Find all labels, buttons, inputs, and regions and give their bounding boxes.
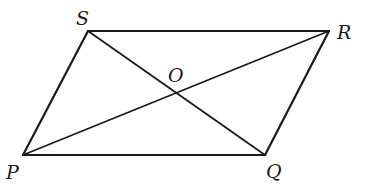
diagonals <box>23 31 329 155</box>
vertex-label-r: R <box>336 21 351 43</box>
vertex-label-s: S <box>76 7 89 29</box>
side-ps <box>23 31 88 155</box>
diagonal-sq <box>88 31 265 155</box>
side-rq <box>265 31 329 155</box>
parallelogram-diagram: S R Q P O <box>0 0 391 190</box>
vertex-label-q: Q <box>266 160 282 182</box>
vertex-label-p: P <box>5 161 20 183</box>
intersection-label-o: O <box>168 64 184 86</box>
